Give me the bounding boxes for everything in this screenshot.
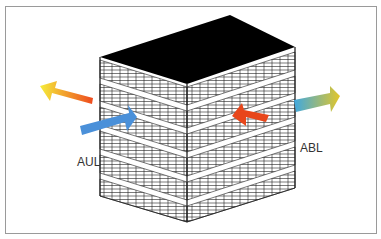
warm-exhaust-arrow-left [40,81,93,104]
left-facade [100,57,187,222]
building-diagram [0,0,381,239]
exhaust-arrow-out-right [294,86,340,112]
abl-label: ABL [300,141,323,155]
aul-label: AUL [77,155,100,169]
